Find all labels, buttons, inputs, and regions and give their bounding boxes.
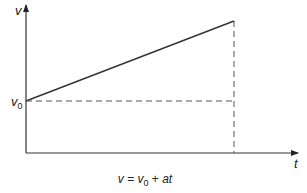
formula-plus: + [149,172,163,186]
formula-eq: = [124,172,138,186]
velocity-line [26,21,234,101]
v0-label: v0 [11,95,23,111]
formula: v = v0 + at [0,173,290,188]
formula-rhs: at [162,172,172,186]
x-axis-label: t [294,157,298,170]
velocity-time-diagram [0,0,307,193]
v0-label-sub: 0 [18,101,23,111]
y-axis-label: v [15,4,22,17]
